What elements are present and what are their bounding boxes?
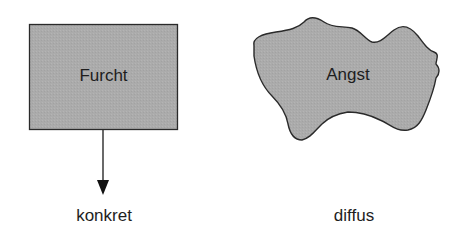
furcht-label: Furcht xyxy=(79,66,127,85)
konkret-caption: konkret xyxy=(76,206,132,225)
diagram-canvas: Furcht konkret Angst diffus xyxy=(0,0,465,233)
arrow-head-icon xyxy=(97,180,109,195)
furcht-group: Furcht konkret xyxy=(30,25,178,226)
angst-label: Angst xyxy=(326,65,370,84)
diffus-caption: diffus xyxy=(334,206,374,225)
angst-group: Angst diffus xyxy=(254,18,439,225)
